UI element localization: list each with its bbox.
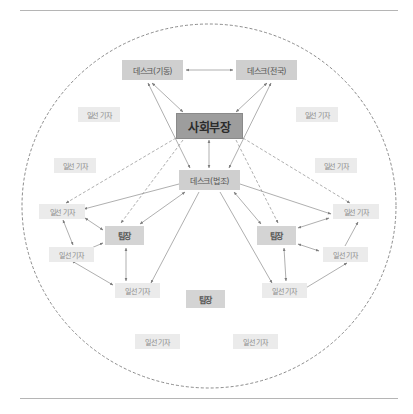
reporter-node: 일선 기자 xyxy=(49,247,94,262)
reporter-node: 일선 기자 xyxy=(262,283,307,298)
reporter-node: 일선 기자 xyxy=(135,334,180,349)
desk-mobile-node: 데스크(기동) xyxy=(122,60,183,80)
team-leader-left-node: 팀장 xyxy=(105,226,144,245)
reporter-node: 일선 기자 xyxy=(333,204,379,219)
reporter-node: 일선 기자 xyxy=(39,204,85,219)
team-leader-bottom-node: 팀장 xyxy=(186,290,225,308)
chief-editor-node: 사회부장 xyxy=(176,113,243,139)
reporter-node: 일선 기자 xyxy=(315,158,357,173)
desk-national-node: 데스크(전국) xyxy=(236,60,297,80)
reporter-node: 일선 기자 xyxy=(296,107,338,122)
desk-legal-node: 데스크(법조) xyxy=(179,170,240,190)
reporter-node: 일선 기자 xyxy=(54,158,96,173)
reporter-node: 일선 기자 xyxy=(78,107,120,122)
reporter-node: 일선 기자 xyxy=(233,334,278,349)
team-leader-right-node: 팀장 xyxy=(257,226,296,245)
reporter-node: 일선 기자 xyxy=(115,283,160,298)
reporter-node: 일선 기자 xyxy=(323,247,368,262)
